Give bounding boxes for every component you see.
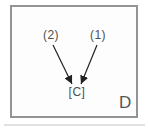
- node-label-1: (1): [90, 29, 106, 42]
- node-label-2: (2): [43, 29, 59, 42]
- node-label-c: [C]: [69, 86, 86, 99]
- figure-panel-d: (2) (1) [C] D: [0, 0, 148, 128]
- scan-artifact-line: [4, 124, 145, 126]
- panel-letter: D: [119, 94, 131, 111]
